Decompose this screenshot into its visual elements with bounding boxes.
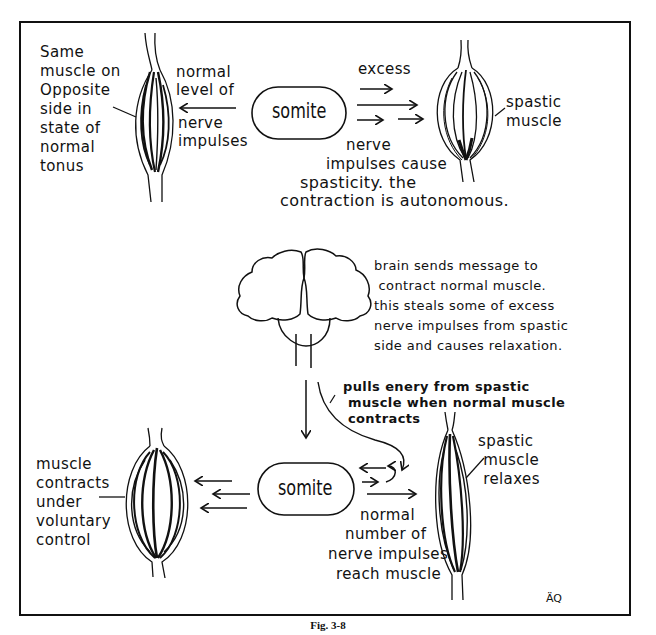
pull-note: pulls enery from spastic muscle when nor…: [343, 379, 565, 427]
redirected-impulse-arrows: [360, 466, 416, 494]
normal-level-label: normal level of: [176, 63, 234, 99]
impulse-note-line1: nerve: [346, 137, 391, 154]
voluntary-impulse-arrows: [195, 481, 250, 508]
spastic-muscle-pointer: [495, 108, 505, 116]
impulse-note-line4: contraction is autonomous.: [280, 191, 509, 210]
normal-number-line3: nerve impulses: [328, 545, 448, 564]
voluntary-muscle-label: muscle contracts under voluntary control: [36, 455, 111, 550]
nerve-impulses-label: nerve impulses: [178, 114, 248, 150]
figure-caption: Fig. 3-8: [0, 619, 656, 631]
pull-note-pointer: [330, 395, 335, 403]
artist-signature: ÄQ: [546, 592, 562, 605]
brain-note: brain sends message to contract normal m…: [374, 256, 568, 356]
impulse-note-line3: spasticity. the: [300, 173, 416, 192]
brain-icon: [237, 249, 371, 368]
impulse-note-line2: impulses cause: [326, 155, 447, 174]
somite-top-label: somite: [272, 99, 326, 123]
normal-number-line2: number of: [345, 525, 426, 544]
excess-label: excess: [358, 60, 411, 79]
normal-muscle-label: Same muscle on Opposite side in state of…: [40, 43, 121, 176]
excess-impulse-arrows: [357, 89, 423, 120]
normal-muscle-icon: [136, 33, 173, 202]
normal-number-line1: normal: [360, 506, 415, 525]
spastic-relaxes-label: spastic muscle relaxes: [478, 432, 540, 489]
somite-bottom-label: somite: [278, 476, 332, 500]
normal-number-line4: reach muscle: [336, 565, 441, 584]
spastic-muscle-label: spastic muscle: [506, 93, 562, 131]
voluntary-muscle-icon: [126, 428, 188, 578]
